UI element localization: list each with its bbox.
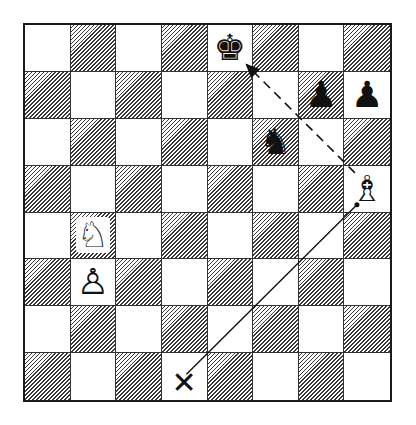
square-c5 <box>116 166 162 213</box>
chess-board: ♚♟♟♞♗♘♙✕ <box>23 23 392 402</box>
square-b5 <box>71 166 117 213</box>
square-b1 <box>71 353 117 400</box>
square-g2 <box>299 306 345 353</box>
square-b7 <box>71 72 117 119</box>
square-c2 <box>116 306 162 353</box>
square-f6: ♞ <box>253 119 299 166</box>
black-pawn-icon: ♟ <box>344 72 390 118</box>
square-a3 <box>25 259 71 306</box>
square-a1 <box>25 353 71 400</box>
square-e6 <box>208 119 254 166</box>
square-c1 <box>116 353 162 400</box>
square-d7 <box>162 72 208 119</box>
square-a7 <box>25 72 71 119</box>
square-d2 <box>162 306 208 353</box>
square-c3 <box>116 259 162 306</box>
square-f7 <box>253 72 299 119</box>
square-h6 <box>344 119 390 166</box>
square-f1 <box>253 353 299 400</box>
square-h3 <box>344 259 390 306</box>
square-f5 <box>253 166 299 213</box>
square-f8 <box>253 25 299 72</box>
square-a6 <box>25 119 71 166</box>
square-a8 <box>25 25 71 72</box>
square-b4: ♘ <box>71 213 117 260</box>
square-e2 <box>208 306 254 353</box>
white-pawn-icon: ♙ <box>71 259 116 305</box>
square-g1 <box>299 353 345 400</box>
square-h7: ♟ <box>344 72 390 119</box>
square-g3 <box>299 259 345 306</box>
square-f4 <box>253 213 299 260</box>
square-f3 <box>253 259 299 306</box>
square-a4 <box>25 213 71 260</box>
white-bishop-icon: ♗ <box>344 166 390 212</box>
square-g7: ♟ <box>299 72 345 119</box>
square-h8 <box>344 25 390 72</box>
black-knight-icon: ♞ <box>253 119 298 165</box>
square-e8: ♚ <box>208 25 254 72</box>
square-h2 <box>344 306 390 353</box>
square-e7 <box>208 72 254 119</box>
square-d3 <box>162 259 208 306</box>
square-c6 <box>116 119 162 166</box>
square-b3: ♙ <box>71 259 117 306</box>
square-d4 <box>162 213 208 260</box>
square-g8 <box>299 25 345 72</box>
square-f2 <box>253 306 299 353</box>
target-x-marker: ✕ <box>162 353 207 406</box>
square-g4 <box>299 213 345 260</box>
square-e1 <box>208 353 254 400</box>
square-b6 <box>71 119 117 166</box>
square-d6 <box>162 119 208 166</box>
square-e3 <box>208 259 254 306</box>
square-d1: ✕ <box>162 353 208 400</box>
square-h4 <box>344 213 390 260</box>
square-d8 <box>162 25 208 72</box>
square-d5 <box>162 166 208 213</box>
square-e4 <box>208 213 254 260</box>
square-c4 <box>116 213 162 260</box>
square-a5 <box>25 166 71 213</box>
square-h1 <box>344 353 390 400</box>
square-g6 <box>299 119 345 166</box>
black-king-icon: ♚ <box>208 25 253 71</box>
square-b2 <box>71 306 117 353</box>
square-e5 <box>208 166 254 213</box>
square-b8 <box>71 25 117 72</box>
white-knight-icon: ♘ <box>71 213 116 259</box>
square-c8 <box>116 25 162 72</box>
black-pawn-icon: ♟ <box>299 72 344 118</box>
square-c7 <box>116 72 162 119</box>
square-h5: ♗ <box>344 166 390 213</box>
square-g5 <box>299 166 345 213</box>
square-a2 <box>25 306 71 353</box>
